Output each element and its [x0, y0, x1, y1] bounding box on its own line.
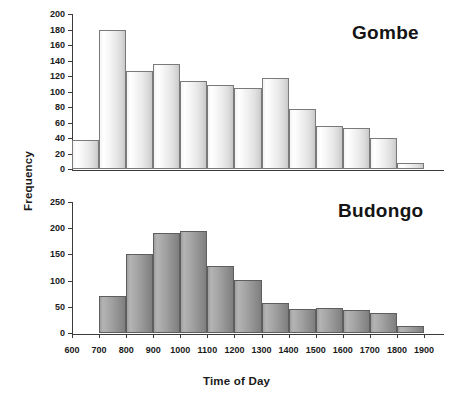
gombe-bar [397, 163, 424, 169]
gombe-bar [153, 64, 180, 169]
budongo-y-tick-label: 50 [35, 303, 65, 312]
x-tick [153, 334, 154, 338]
budongo-bar [343, 310, 370, 333]
gombe-bar [234, 88, 261, 169]
x-tick [262, 334, 263, 338]
budongo-x-axis-line [72, 334, 444, 335]
gombe-y-tick-label: 180 [35, 26, 65, 35]
budongo-y-tick-label: 150 [35, 250, 65, 259]
gombe-title: Gombe [352, 22, 419, 44]
gombe-y-tick-label: 40 [35, 134, 65, 143]
gombe-bar [343, 128, 370, 169]
gombe-y-tick-label: 160 [35, 41, 65, 50]
budongo-y-tick-label: 250 [35, 198, 65, 207]
gombe-y-tick-label: 120 [35, 72, 65, 81]
budongo-bar [126, 254, 153, 333]
budongo-bar [99, 296, 126, 333]
x-tick [397, 334, 398, 338]
x-tick [99, 334, 100, 338]
gombe-bar [289, 109, 316, 169]
gombe-y-tick [68, 169, 72, 170]
gombe-y-tick-label: 140 [35, 57, 65, 66]
gombe-bar [370, 138, 397, 169]
budongo-bar [153, 233, 180, 333]
x-axis-label: Time of Day [0, 375, 473, 387]
gombe-bar [72, 140, 99, 169]
budongo-bar [207, 266, 234, 333]
x-tick [316, 334, 317, 338]
gombe-x-axis-line [72, 170, 444, 171]
x-tick [180, 334, 181, 338]
x-tick [424, 334, 425, 338]
x-tick [72, 334, 73, 338]
x-tick [234, 334, 235, 338]
x-tick [289, 334, 290, 338]
budongo-title: Budongo [338, 200, 423, 222]
x-tick [370, 334, 371, 338]
budongo-y-tick-label: 100 [35, 277, 65, 286]
gombe-bar [262, 78, 289, 169]
gombe-bar [99, 30, 126, 169]
gombe-y-tick-label: 0 [35, 165, 65, 174]
gombe-bar [180, 81, 207, 169]
budongo-bar [370, 313, 397, 333]
gombe-y-tick-label: 60 [35, 119, 65, 128]
x-tick [207, 334, 208, 338]
budongo-bar [262, 303, 289, 333]
gombe-y-tick-label: 20 [35, 150, 65, 159]
gombe-y-tick-label: 100 [35, 88, 65, 97]
budongo-bar [397, 326, 424, 333]
gombe-bar [126, 71, 153, 169]
gombe-y-tick-label: 80 [35, 103, 65, 112]
gombe-y-tick-label: 200 [35, 10, 65, 19]
budongo-y-tick-label: 0 [35, 329, 65, 338]
x-tick-label: 1900 [404, 345, 444, 355]
budongo-bar [289, 309, 316, 333]
budongo-bar [180, 231, 207, 333]
budongo-bar [234, 280, 261, 333]
budongo-y-tick-label: 200 [35, 224, 65, 233]
x-tick [126, 334, 127, 338]
gombe-bar [316, 126, 343, 169]
gombe-bar [207, 85, 234, 169]
x-tick [343, 334, 344, 338]
budongo-bar [316, 308, 343, 333]
